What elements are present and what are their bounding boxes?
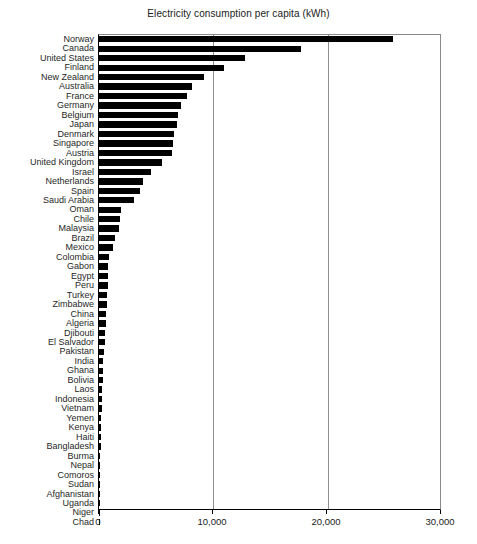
bar-row xyxy=(99,357,441,366)
bar xyxy=(99,434,101,440)
bar-row xyxy=(99,234,441,243)
bar-row xyxy=(99,480,441,489)
bar-row xyxy=(99,63,441,72)
bar-row xyxy=(99,158,441,167)
bar xyxy=(99,415,101,421)
bar xyxy=(99,178,143,184)
bar xyxy=(99,188,140,194)
bar xyxy=(99,169,151,175)
bar-row xyxy=(99,111,441,120)
x-axis-tick-label: 0 xyxy=(95,516,100,527)
x-axis-tick xyxy=(440,510,441,514)
bar-row xyxy=(99,490,441,499)
bar-row xyxy=(99,168,441,177)
bar xyxy=(99,74,204,80)
bar-row xyxy=(99,177,441,186)
bar-row xyxy=(99,215,441,224)
bar-row xyxy=(99,414,441,423)
bar-row xyxy=(99,196,441,205)
bar xyxy=(99,65,224,71)
bar xyxy=(99,131,174,137)
y-axis-category-labels: NorwayCanadaUnited StatesFinlandNew Zeal… xyxy=(0,35,95,509)
bar-row xyxy=(99,253,441,262)
bar xyxy=(99,349,104,355)
bar xyxy=(99,263,108,269)
bar xyxy=(99,443,101,449)
bar xyxy=(99,377,103,383)
bar xyxy=(99,244,113,250)
bar-row xyxy=(99,82,441,91)
bar xyxy=(99,462,100,468)
bar-row xyxy=(99,224,441,233)
bar xyxy=(99,36,393,42)
bar-row xyxy=(99,338,441,347)
bar xyxy=(99,55,245,61)
bar-row xyxy=(99,452,441,461)
bar-row xyxy=(99,139,441,148)
bar-row xyxy=(99,499,441,508)
bar xyxy=(99,83,192,89)
bar-row xyxy=(99,272,441,281)
bar-row xyxy=(99,243,441,252)
bar xyxy=(99,112,178,118)
bar xyxy=(99,386,102,392)
bar xyxy=(99,282,108,288)
bar xyxy=(99,225,119,231)
bar-row xyxy=(99,395,441,404)
bar xyxy=(99,197,134,203)
bar-row xyxy=(99,404,441,413)
bar-row xyxy=(99,44,441,53)
bar xyxy=(99,93,187,99)
bar xyxy=(99,481,100,487)
bar-row xyxy=(99,73,441,82)
bar xyxy=(99,368,103,374)
bar-row xyxy=(99,120,441,129)
bar xyxy=(99,339,105,345)
bar xyxy=(99,254,109,260)
bar xyxy=(99,102,181,108)
bar xyxy=(99,500,100,506)
bar xyxy=(99,301,107,307)
bar-row xyxy=(99,149,441,158)
bar-row xyxy=(99,205,441,214)
bar xyxy=(99,396,102,402)
bar xyxy=(99,453,100,459)
x-axis-tick xyxy=(98,510,99,514)
bar xyxy=(99,358,103,364)
bar-row xyxy=(99,187,441,196)
bar-row xyxy=(99,385,441,394)
bar-row xyxy=(99,291,441,300)
bar-row xyxy=(99,442,441,451)
bar xyxy=(99,121,177,127)
bar xyxy=(99,311,106,317)
bar xyxy=(99,216,120,222)
bar xyxy=(99,207,121,213)
bar xyxy=(99,491,100,497)
bar-row xyxy=(99,461,441,470)
bar-row xyxy=(99,329,441,338)
chart-figure: Electricity consumption per capita (kWh)… xyxy=(0,0,477,544)
bar-row xyxy=(99,35,441,44)
x-axis-tick-label: 10,000 xyxy=(197,516,226,527)
bar xyxy=(99,159,162,165)
bar xyxy=(99,472,100,478)
x-axis-tick-label: 30,000 xyxy=(425,516,454,527)
bar xyxy=(99,292,107,298)
bar xyxy=(99,330,105,336)
x-axis-tick xyxy=(326,510,327,514)
bar-row xyxy=(99,319,441,328)
bar xyxy=(99,235,115,241)
bar xyxy=(99,405,102,411)
x-axis-tick-label: 20,000 xyxy=(311,516,340,527)
x-axis-tick xyxy=(212,510,213,514)
bar xyxy=(99,424,101,430)
bar-row xyxy=(99,347,441,356)
bar-row xyxy=(99,281,441,290)
chart-title: Electricity consumption per capita (kWh) xyxy=(0,8,477,19)
bar-row xyxy=(99,376,441,385)
bar-row xyxy=(99,130,441,139)
bar xyxy=(99,273,108,279)
bar-series xyxy=(99,35,441,509)
bar xyxy=(99,140,173,146)
bar xyxy=(99,46,301,52)
